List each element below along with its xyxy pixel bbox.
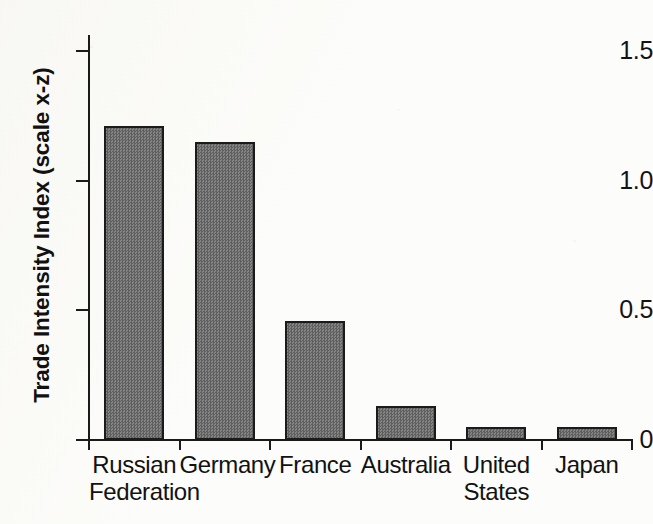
- x-tick-mark: [541, 440, 543, 450]
- bar: [466, 427, 526, 440]
- x-axis-label-line: United: [451, 452, 542, 479]
- x-axis-label-line: States: [451, 479, 542, 506]
- y-tick-mark: [76, 180, 89, 182]
- x-axis-label: Australia: [361, 452, 452, 479]
- x-tick-mark: [88, 440, 90, 450]
- x-axis-label: Japan: [542, 452, 633, 479]
- x-axis-label: RussianFederation: [89, 452, 180, 506]
- y-tick-mark: [76, 309, 89, 311]
- x-tick-mark: [179, 440, 181, 450]
- x-tick-mark: [269, 440, 271, 450]
- x-axis-label-line: Japan: [542, 452, 633, 479]
- bar: [557, 427, 617, 440]
- x-axis-label-line: Federation: [89, 479, 180, 506]
- chart-figure: Trade Intensity Index (scale x-z) 00.51.…: [0, 0, 653, 524]
- x-tick-mark: [360, 440, 362, 450]
- x-axis-label-line: Australia: [361, 452, 452, 479]
- x-axis-label-line: Germany: [180, 452, 271, 479]
- bar: [285, 321, 345, 440]
- x-tick-mark: [631, 440, 633, 450]
- bar: [104, 126, 164, 440]
- x-axis-label: Germany: [180, 452, 271, 479]
- x-axis-label: France: [270, 452, 361, 479]
- x-tick-mark: [450, 440, 452, 450]
- y-tick-mark: [76, 50, 89, 52]
- bar: [195, 142, 255, 440]
- x-axis-label-line: Russian: [89, 452, 180, 479]
- plot-area: [89, 35, 632, 440]
- x-axis-label-line: France: [270, 452, 361, 479]
- y-axis-title: Trade Intensity Index (scale x-z): [29, 30, 55, 440]
- bar: [376, 406, 436, 440]
- x-axis-label: UnitedStates: [451, 452, 542, 506]
